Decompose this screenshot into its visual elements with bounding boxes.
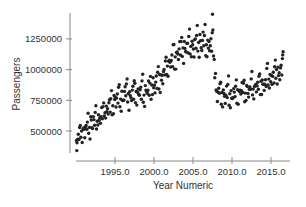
data-point bbox=[162, 68, 165, 71]
data-point bbox=[140, 79, 143, 82]
data-point bbox=[114, 105, 117, 108]
data-point bbox=[135, 103, 138, 106]
data-point bbox=[203, 34, 206, 37]
data-point bbox=[94, 111, 97, 114]
data-point bbox=[195, 34, 198, 37]
data-point bbox=[102, 101, 105, 104]
x-tick-label: 1995.0 bbox=[100, 166, 129, 177]
data-point bbox=[196, 49, 199, 52]
data-point bbox=[161, 82, 164, 85]
data-point bbox=[274, 58, 277, 61]
data-point bbox=[209, 44, 212, 47]
scatter-chart: 50000075000010000001250000 Passengers 19… bbox=[0, 0, 306, 207]
data-point bbox=[125, 77, 128, 80]
data-point bbox=[194, 37, 197, 40]
data-point bbox=[109, 97, 112, 100]
data-point bbox=[279, 63, 282, 66]
data-point bbox=[172, 43, 175, 46]
data-point bbox=[255, 84, 258, 87]
data-point bbox=[246, 92, 249, 95]
data-point bbox=[194, 47, 197, 50]
data-point bbox=[266, 62, 269, 65]
data-point bbox=[201, 30, 204, 33]
x-tick-label: 2005.0 bbox=[178, 166, 207, 177]
data-point bbox=[191, 43, 194, 46]
data-point bbox=[81, 141, 84, 144]
data-point bbox=[139, 86, 142, 89]
data-point bbox=[186, 42, 189, 45]
data-point bbox=[138, 94, 141, 97]
data-point bbox=[101, 117, 104, 120]
data-point bbox=[95, 127, 98, 130]
data-point bbox=[101, 105, 104, 108]
data-point bbox=[159, 91, 162, 94]
data-point bbox=[131, 85, 134, 88]
data-point bbox=[281, 53, 284, 56]
data-point bbox=[209, 37, 212, 40]
data-point bbox=[263, 89, 266, 92]
data-point bbox=[133, 82, 136, 85]
data-point bbox=[242, 82, 245, 85]
x-ticks: 1995.02000.02005.02010.02015.0 bbox=[100, 157, 285, 177]
data-point bbox=[154, 80, 157, 83]
data-point bbox=[247, 95, 250, 98]
x-axis: 1995.02000.02005.02010.02015.0 Year Nume… bbox=[76, 157, 290, 191]
data-point bbox=[180, 36, 183, 39]
data-point bbox=[211, 13, 214, 16]
data-point bbox=[104, 116, 107, 119]
data-point bbox=[75, 141, 78, 144]
data-point bbox=[205, 55, 208, 58]
data-point bbox=[271, 75, 274, 78]
data-point bbox=[118, 83, 121, 86]
data-point bbox=[125, 82, 128, 85]
y-tick-label: 1000000 bbox=[25, 64, 62, 75]
data-point bbox=[234, 85, 237, 88]
data-point bbox=[268, 86, 271, 89]
data-point bbox=[75, 149, 78, 152]
x-axis-label: Year Numeric bbox=[153, 180, 213, 191]
data-point bbox=[250, 77, 253, 80]
data-point bbox=[251, 93, 254, 96]
data-point bbox=[174, 67, 177, 70]
data-point bbox=[131, 88, 134, 91]
data-point bbox=[272, 71, 275, 74]
data-point bbox=[120, 110, 123, 113]
data-point bbox=[112, 112, 115, 115]
y-tick-label: 750000 bbox=[30, 95, 62, 106]
data-point bbox=[278, 71, 281, 74]
data-point bbox=[142, 93, 145, 96]
data-point bbox=[257, 88, 260, 91]
data-point bbox=[276, 82, 279, 85]
data-point bbox=[214, 72, 217, 75]
data-point bbox=[170, 53, 173, 56]
data-point bbox=[179, 40, 182, 43]
data-point bbox=[84, 124, 87, 127]
data-point bbox=[187, 35, 190, 38]
data-point bbox=[210, 50, 213, 53]
data-point bbox=[205, 43, 208, 46]
data-point bbox=[235, 78, 238, 81]
data-point bbox=[127, 109, 130, 112]
data-point bbox=[281, 50, 284, 53]
data-point bbox=[115, 96, 118, 99]
data-point bbox=[146, 89, 149, 92]
data-point bbox=[264, 78, 267, 81]
data-point bbox=[226, 83, 229, 86]
data-point bbox=[141, 73, 144, 76]
data-point bbox=[116, 101, 119, 104]
data-point bbox=[142, 101, 145, 104]
data-point bbox=[177, 47, 180, 50]
data-point bbox=[221, 105, 224, 108]
data-point bbox=[278, 78, 281, 81]
data-point bbox=[153, 91, 156, 94]
data-point bbox=[148, 94, 151, 97]
data-point bbox=[86, 120, 89, 123]
data-point bbox=[157, 65, 160, 68]
data-point bbox=[201, 39, 204, 42]
data-point bbox=[188, 27, 191, 30]
data-point bbox=[256, 81, 259, 84]
data-point bbox=[86, 112, 89, 115]
data-point bbox=[153, 84, 156, 87]
data-point bbox=[177, 58, 180, 61]
y-tick-label: 1250000 bbox=[25, 33, 62, 44]
